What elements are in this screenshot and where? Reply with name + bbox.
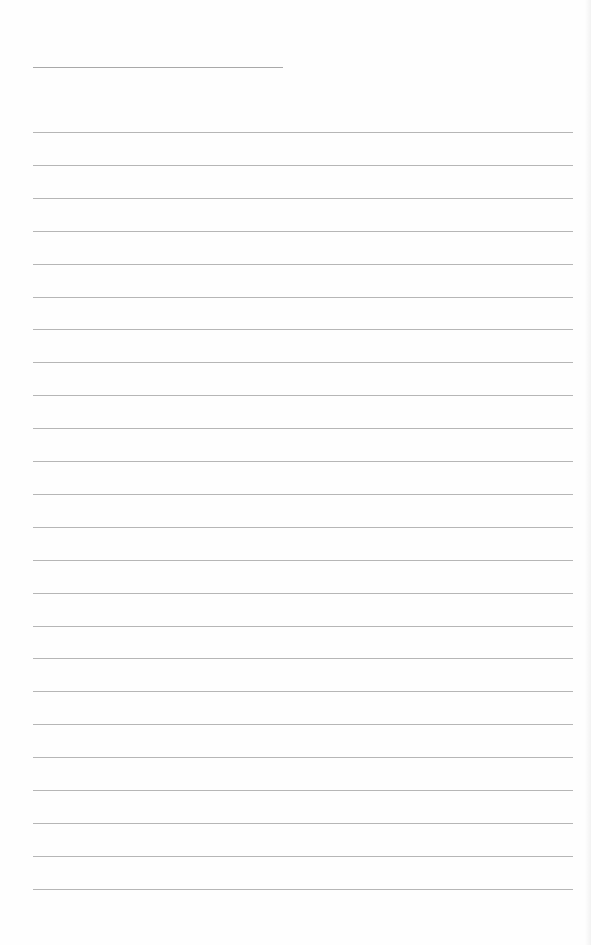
title-rule [33,67,283,68]
ruled-line [33,132,573,133]
ruled-line [33,658,573,659]
ruled-line [33,264,573,265]
ruled-line [33,856,573,857]
ruled-line [33,494,573,495]
ruled-line [33,626,573,627]
lined-paper-page [0,0,591,945]
ruled-line [33,395,573,396]
page-edge-shadow [585,0,591,945]
ruled-line [33,198,573,199]
ruled-line [33,165,573,166]
ruled-line [33,691,573,692]
ruled-line [33,757,573,758]
ruled-line [33,362,573,363]
ruled-line [33,297,573,298]
ruled-line [33,889,573,890]
ruled-line [33,724,573,725]
ruled-line [33,231,573,232]
ruled-line [33,560,573,561]
ruled-line [33,428,573,429]
ruled-line [33,329,573,330]
ruled-line [33,593,573,594]
ruled-line [33,461,573,462]
ruled-line [33,527,573,528]
ruled-line [33,790,573,791]
ruled-line [33,823,573,824]
